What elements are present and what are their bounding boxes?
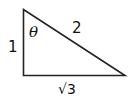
hypotenuse-label: 2	[72, 19, 82, 37]
vertical-side-label: 1	[8, 38, 18, 56]
base-label: √3	[58, 81, 76, 97]
angle-theta-label: θ	[29, 23, 38, 41]
triangle-diagram: 1 2 θ √3	[0, 0, 132, 99]
